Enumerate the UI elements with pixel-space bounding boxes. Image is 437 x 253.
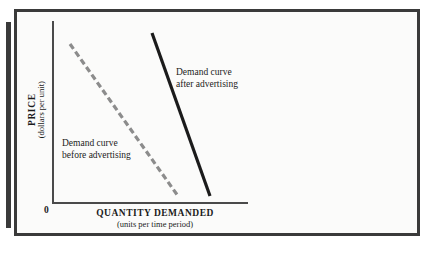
annotation-after-line1: Demand curve: [176, 67, 238, 79]
y-axis-subtitle: (dollars per unit): [38, 50, 47, 170]
annotation-after-line2: after advertising: [176, 79, 238, 91]
origin-label: 0: [44, 205, 49, 215]
annotation-before-line1: Demand curve: [62, 138, 131, 150]
y-axis-label: PRICE (dollars per unit): [27, 50, 46, 170]
x-axis-label: QUANTITY DEMANDED (units per time period…: [62, 208, 248, 229]
plot-area: PRICE (dollars per unit) QUANTITY DEMAND…: [0, 0, 437, 253]
annotation-after-advertising: Demand curve after advertising: [176, 67, 238, 90]
x-axis-title: QUANTITY DEMANDED: [62, 208, 248, 219]
annotation-before-advertising: Demand curve before advertising: [62, 138, 131, 161]
annotation-before-line2: before advertising: [62, 150, 131, 162]
demand-curve-before-advertising: [70, 44, 178, 196]
figure-screenshot: PRICE (dollars per unit) QUANTITY DEMAND…: [0, 0, 437, 253]
x-axis-subtitle: (units per time period): [62, 219, 248, 229]
demand-curve-after-advertising: [152, 33, 210, 196]
